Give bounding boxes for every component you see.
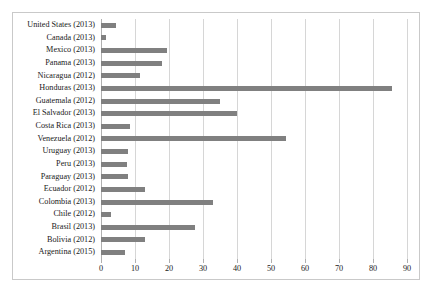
bar: [101, 48, 167, 53]
bar: [101, 73, 140, 78]
category-label: El Salvador (2013): [13, 107, 99, 120]
tick-label-50: 50: [267, 264, 275, 273]
bar-row: [101, 19, 407, 32]
bar-row: [101, 70, 407, 83]
bar: [101, 61, 162, 66]
bar-row: [101, 32, 407, 45]
category-label: Paraguay (2013): [13, 171, 99, 184]
category-label: Ecuador (2012): [13, 183, 99, 196]
category-label: Brasil (2013): [13, 221, 99, 234]
bar: [101, 136, 286, 141]
tick-mark-0: [101, 259, 102, 263]
bar-row: [101, 145, 407, 158]
bar-chart-figure: United States (2013)Canada (2013)Mexico …: [12, 12, 420, 280]
plot-area: [101, 19, 407, 259]
category-label: Nicaragua (2012): [13, 70, 99, 83]
tick-label-30: 30: [199, 264, 207, 273]
bar-row: [101, 246, 407, 259]
category-label: Panama (2013): [13, 57, 99, 70]
category-label: Costa Rica (2013): [13, 120, 99, 133]
bar: [101, 212, 111, 217]
tick-label-0: 0: [99, 264, 103, 273]
bar: [101, 225, 195, 230]
tick-label-60: 60: [301, 264, 309, 273]
tick-label-20: 20: [165, 264, 173, 273]
category-label: Colombia (2013): [13, 196, 99, 209]
bar: [101, 99, 220, 104]
category-label: Honduras (2013): [13, 82, 99, 95]
bar-row: [101, 196, 407, 209]
bar-row: [101, 133, 407, 146]
category-label: Canada (2013): [13, 32, 99, 45]
bar: [101, 200, 213, 205]
bar: [101, 124, 130, 129]
bar: [101, 250, 125, 255]
tick-mark-80: [373, 259, 374, 263]
bar-row: [101, 95, 407, 108]
bar-row: [101, 158, 407, 171]
tick-mark-30: [203, 259, 204, 263]
tick-label-40: 40: [233, 264, 241, 273]
bar-row: [101, 208, 407, 221]
tick-mark-20: [169, 259, 170, 263]
category-label: Peru (2013): [13, 158, 99, 171]
tick-label-80: 80: [369, 264, 377, 273]
category-label: Venezuela (2012): [13, 133, 99, 146]
bar: [101, 187, 145, 192]
bar-row: [101, 183, 407, 196]
bar-row: [101, 57, 407, 70]
bar: [101, 162, 127, 167]
tick-label-10: 10: [131, 264, 139, 273]
bar: [101, 149, 128, 154]
category-label: Guatemala (2012): [13, 95, 99, 108]
category-label: Mexico (2013): [13, 44, 99, 57]
bar: [101, 111, 237, 116]
tick-label-70: 70: [335, 264, 343, 273]
category-label: United States (2013): [13, 19, 99, 32]
tick-mark-60: [305, 259, 306, 263]
bar-row: [101, 82, 407, 95]
category-label: Argentina (2015): [13, 246, 99, 259]
bar-row: [101, 107, 407, 120]
category-label: Uruguay (2013): [13, 145, 99, 158]
bar: [101, 86, 392, 91]
category-axis-labels: United States (2013)Canada (2013)Mexico …: [13, 19, 99, 259]
tick-mark-90: [407, 259, 408, 263]
gridline-90: [407, 19, 408, 259]
value-axis: 0102030405060708090: [101, 259, 407, 279]
tick-mark-50: [271, 259, 272, 263]
bar-row: [101, 120, 407, 133]
tick-label-90: 90: [403, 264, 411, 273]
category-label: Bolivia (2012): [13, 234, 99, 247]
bar: [101, 23, 116, 28]
tick-mark-10: [135, 259, 136, 263]
tick-mark-70: [339, 259, 340, 263]
bar-series: [101, 19, 407, 259]
bar-row: [101, 221, 407, 234]
bar-row: [101, 171, 407, 184]
bar-row: [101, 44, 407, 57]
category-label: Chile (2012): [13, 208, 99, 221]
bar: [101, 237, 145, 242]
bar: [101, 174, 128, 179]
bar-row: [101, 234, 407, 247]
bar: [101, 35, 106, 40]
tick-mark-40: [237, 259, 238, 263]
